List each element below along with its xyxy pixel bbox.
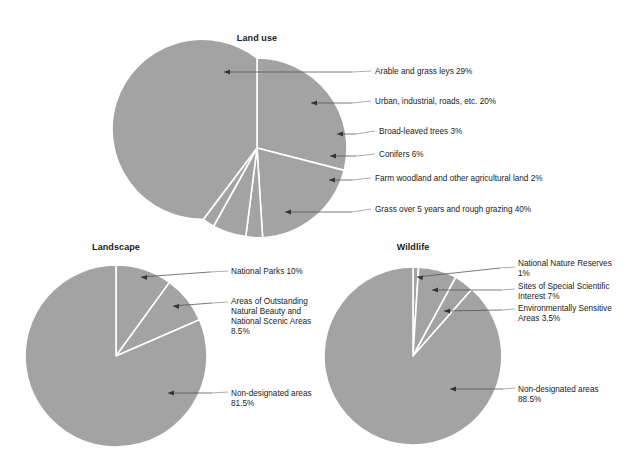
label-non-designated-wildlife-line2: 88.5% (518, 395, 541, 404)
chart-title-wildlife: Wildlife (397, 242, 430, 252)
label-non-designated-wildlife-line1: Non-designated areas (518, 385, 599, 394)
label-conifers: Conifers 6% (379, 150, 424, 159)
label-arable-and-grass-leys: Arable and grass leys 29% (375, 67, 472, 76)
label-national-nature-reserves-line1: National Nature Reserves (518, 259, 612, 268)
label-non-designated-landscape-line1: Non-designated areas (231, 389, 312, 398)
label-farm-woodland: Farm woodland and other agricultural lan… (375, 174, 542, 183)
label-national-parks: National Parks 10% (231, 267, 303, 276)
label-national-nature-reserves-line2: 1% (518, 269, 530, 278)
label-grass-over-5-years: Grass over 5 years and rough grazing 40% (375, 205, 531, 214)
label-esa-line2: Areas 3.5% (518, 314, 560, 323)
label-aonb-line1: Areas of Outstanding (231, 297, 308, 306)
three-pie-chart-figure: Land use (0, 0, 632, 474)
label-aonb-line4: 8.5% (231, 327, 250, 336)
label-sssi-line1: Sites of Special Scientific (518, 282, 609, 291)
pie-slice-non-designated-areas-wildlife[interactable] (324, 267, 502, 445)
label-sssi-line2: Interest 7% (518, 292, 559, 301)
label-urban-industrial-roads: Urban, industrial, roads, etc. 20% (375, 97, 496, 106)
label-aonb-line3: National Scenic Areas (231, 317, 311, 326)
label-non-designated-landscape-line2: 81.5% (231, 399, 254, 408)
label-broad-leaved-trees: Broad-leaved trees 3% (379, 127, 462, 136)
label-aonb-line2: Natural Beauty and (231, 307, 302, 316)
pie-wildlife (324, 267, 502, 445)
label-esa-line1: Environmentally Sensitive (518, 304, 612, 313)
pie-landscape (25, 265, 207, 447)
chart-title-landscape: Landscape (92, 242, 140, 252)
chart-title-land-use: Land use (237, 33, 277, 43)
